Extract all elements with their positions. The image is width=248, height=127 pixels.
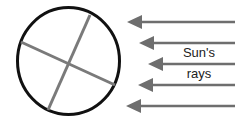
arrow-1	[127, 15, 235, 29]
rays-label-line2: rays	[174, 67, 224, 80]
sun-rays-arrows	[126, 15, 235, 113]
sun-rays-diagram	[0, 0, 248, 127]
rays-label-line1: Sun's	[174, 46, 224, 59]
arrow-5	[126, 99, 235, 113]
axis-line	[48, 15, 90, 110]
globe	[18, 8, 120, 115]
